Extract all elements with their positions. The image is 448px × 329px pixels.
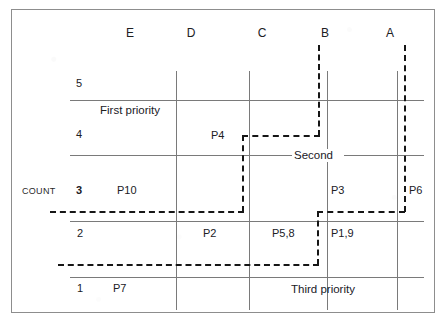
boundary-first-vertical-b <box>318 45 320 136</box>
count-tick-3: 3 <box>76 185 82 196</box>
count-tick-1: 1 <box>77 283 83 294</box>
data-label-p58: P5,8 <box>272 228 295 239</box>
boundary-third-horizontal <box>58 264 319 266</box>
data-label-p6: P6 <box>409 185 422 196</box>
grid-hline-5-4 <box>70 100 424 101</box>
data-label-p7: P7 <box>113 283 126 294</box>
annotation-second: Second <box>294 150 333 161</box>
boundary-first-vertical-c <box>242 135 244 212</box>
grid-vline-b <box>327 71 328 310</box>
annotation-third-priority: Third priority <box>291 284 355 295</box>
priority-matrix-figure: E D C B A COUNT 5 4 3 2 1 First priority… <box>0 0 448 329</box>
grid-vline-c <box>249 71 250 310</box>
count-tick-5: 5 <box>76 78 82 89</box>
grid-vline-d <box>176 71 177 310</box>
grid-vline-a <box>397 71 398 310</box>
column-header-e: E <box>126 28 134 39</box>
column-header-d: D <box>187 28 196 39</box>
column-header-b: B <box>321 28 329 39</box>
data-label-p2: P2 <box>203 228 216 239</box>
data-label-p19: P1,9 <box>331 228 354 239</box>
boundary-third-vertical-b <box>317 211 319 265</box>
grid-hline-2-1 <box>70 277 424 278</box>
boundary-first-horizontal <box>242 135 320 137</box>
count-axis-label: COUNT <box>22 186 56 197</box>
annotation-first-priority: First priority <box>100 105 160 116</box>
count-tick-4: 4 <box>76 129 82 140</box>
data-label-p10: P10 <box>117 185 137 196</box>
count-tick-2: 2 <box>77 228 83 239</box>
grid-hline-4-3 <box>70 155 424 156</box>
figure-border <box>11 9 435 313</box>
data-label-p3: P3 <box>331 185 344 196</box>
boundary-first-vertical-a <box>404 45 406 212</box>
data-label-p4: P4 <box>211 130 224 141</box>
boundary-first-horizontal-left <box>50 211 244 213</box>
boundary-second-horizontal-right <box>317 211 405 213</box>
grid-hline-3-2 <box>70 221 424 222</box>
column-header-a: A <box>386 28 394 39</box>
column-header-c: C <box>258 28 267 39</box>
